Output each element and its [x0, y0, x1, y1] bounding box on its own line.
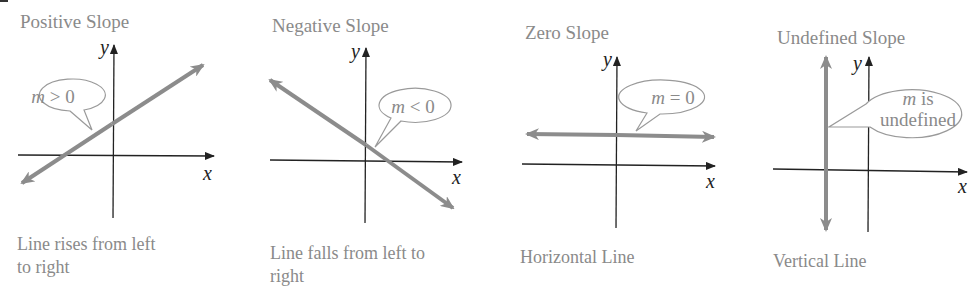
y-axis — [868, 57, 869, 232]
negative-slope-line — [270, 80, 366, 145]
panel-zero-slope — [522, 57, 715, 228]
x-axis-label: x — [452, 166, 461, 189]
x-axis — [773, 169, 967, 172]
bubble-label: m isundefined — [868, 88, 968, 130]
y-axis — [113, 45, 114, 218]
bubble-label: m < 0 — [381, 96, 445, 118]
panel-caption: Vertical Line — [773, 250, 866, 273]
panel-caption: Line rises from leftto right — [17, 233, 155, 279]
y-axis-label: y — [100, 36, 109, 59]
panel-title: Zero Slope — [525, 22, 609, 44]
panel-title: Undefined Slope — [777, 27, 905, 49]
y-axis — [616, 57, 617, 228]
bubble-label: m = 0 — [634, 87, 712, 109]
x-axis-label: x — [203, 162, 212, 185]
positive-slope-line — [112, 65, 203, 124]
y-axis-label: y — [603, 48, 612, 71]
y-axis-label: y — [351, 40, 360, 63]
y-axis-label: y — [853, 52, 862, 75]
panel-caption: Line falls from left toright — [270, 242, 425, 288]
y-axis — [365, 48, 366, 223]
zero-slope-line — [527, 134, 617, 135]
panel-title: Positive Slope — [20, 11, 129, 33]
panel-undefined-slope — [773, 57, 967, 232]
panel-caption: Horizontal Line — [520, 246, 634, 269]
bubble-label: m > 0 — [25, 86, 81, 108]
x-axis-label: x — [958, 175, 967, 198]
panel-negative-slope — [270, 48, 462, 223]
panel-title: Negative Slope — [272, 15, 389, 37]
x-axis — [18, 155, 214, 156]
x-axis — [522, 164, 715, 166]
x-axis-label: x — [706, 170, 715, 193]
panel-positive-slope — [18, 45, 214, 218]
